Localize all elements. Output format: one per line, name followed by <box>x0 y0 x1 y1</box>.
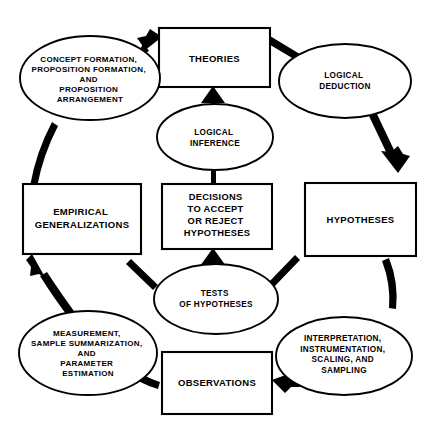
node-hypotheses-label: HYPOTHESES <box>327 214 395 225</box>
arrowhead-theories-inner <box>201 86 225 103</box>
edge-logical-deduction-to-hypotheses <box>369 112 395 156</box>
arrowhead-empirical-generalizations <box>26 254 46 279</box>
edge-tests-to-empirical-generalizations <box>126 259 158 290</box>
edge-decisions-to-logical-inference <box>211 171 216 184</box>
edge-hypotheses-to-interpretation <box>382 258 397 309</box>
diagram-canvas: THEORIES HYPOTHESES OBSERVATIONS EMPIRIC… <box>0 0 429 439</box>
node-logical-deduction-label: LOGICAL DEDUCTION <box>319 71 370 91</box>
wheel-of-science-diagram: THEORIES HYPOTHESES OBSERVATIONS EMPIRIC… <box>0 0 429 439</box>
node-theories-label: THEORIES <box>189 52 240 63</box>
edge-empirical-generalizations-to-concept-formation <box>30 122 58 187</box>
node-observations-label: OBSERVATIONS <box>178 377 256 388</box>
node-logical-inference-label: LOGICAL INFERENCE <box>190 128 240 148</box>
